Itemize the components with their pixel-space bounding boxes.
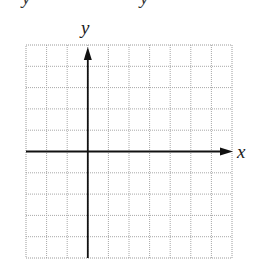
cropped-letter-y: y xyxy=(20,0,31,8)
cropped-heading-text: y y xyxy=(20,0,149,8)
y-axis-arrowhead-icon xyxy=(84,47,92,60)
cropped-letter-y: y xyxy=(138,0,149,8)
x-axis-label: x xyxy=(236,141,246,162)
y-axis-label: y xyxy=(79,17,90,38)
x-axis-arrowhead-icon xyxy=(220,148,233,156)
axes xyxy=(26,47,233,258)
coordinate-plane: y y y x xyxy=(0,0,258,263)
